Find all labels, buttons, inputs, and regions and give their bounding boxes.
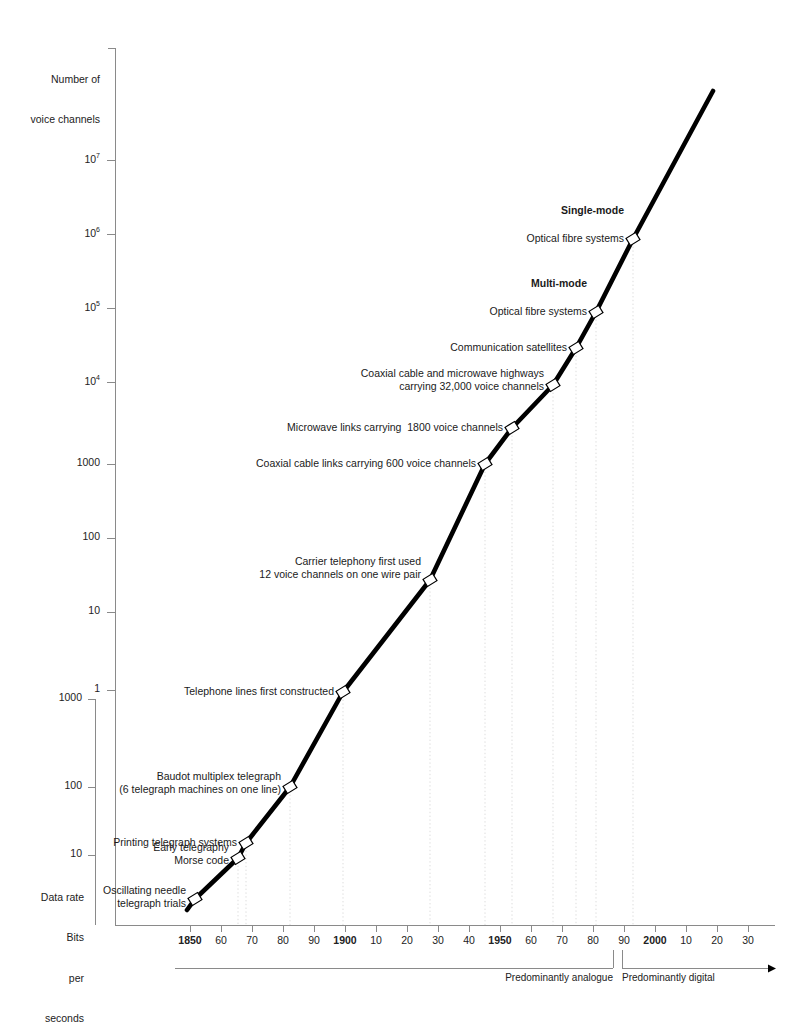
y-axis-tick-label: 106 bbox=[0, 226, 100, 240]
annotation-multi-mode: Optical fibre systems bbox=[287, 305, 587, 318]
annotation-baudot-multiplex: Baudot multiplex telegraph(6 telegraph m… bbox=[0, 770, 281, 797]
annotation-early-telegraphy: Early telegraphyMorse code bbox=[0, 841, 229, 868]
annotation-communication-satellites: Communication satellites bbox=[267, 341, 567, 354]
y-axis-primary-title-line1: Number of bbox=[0, 73, 100, 86]
y-axis-secondary-title-line4: seconds bbox=[0, 1012, 84, 1025]
y-axis-tick-label: 10 bbox=[0, 604, 100, 617]
annotation-single-mode: Optical fibre systems bbox=[324, 232, 624, 245]
era-label: Predominantly digital bbox=[622, 972, 794, 985]
y-axis-tick-label: 107 bbox=[0, 152, 100, 166]
x-axis-tick-label: 30 bbox=[723, 934, 773, 947]
y-axis-secondary-title-line3: per bbox=[0, 972, 84, 985]
y-axis-tick-label: 105 bbox=[0, 300, 100, 314]
annotation-oscillating-needle-line2: telegraph trials bbox=[0, 897, 186, 910]
annotation-coaxial-cable-links: Coaxial cable links carrying 600 voice c… bbox=[176, 457, 476, 470]
y-axis-primary-title: Number of voice channels bbox=[0, 46, 100, 140]
annotation-baudot-multiplex-line2: (6 telegraph machines on one line) bbox=[0, 783, 281, 796]
y-axis-tick-label: 104 bbox=[0, 374, 100, 388]
annotation-microwave-links: Microwave links carrying 1800 voice chan… bbox=[203, 421, 503, 434]
x-axis bbox=[115, 925, 775, 932]
annotation-telephone-lines: Telephone lines first constructed bbox=[34, 685, 334, 698]
era-label: Predominantly analogue bbox=[353, 972, 613, 985]
annotation-coaxial-microwave-highways-line1: Coaxial cable and microwave highways bbox=[244, 367, 544, 380]
annotation-carrier-telephony: Carrier telephony first used12 voice cha… bbox=[121, 555, 421, 582]
annotation-multi-mode-heading: Multi-mode bbox=[287, 277, 587, 290]
era-indicators bbox=[175, 950, 776, 973]
annotation-coaxial-microwave-highways: Coaxial cable and microwave highwayscarr… bbox=[244, 367, 544, 394]
annotation-single-mode-heading: Single-mode bbox=[324, 204, 624, 217]
telecom-capacity-chart bbox=[0, 0, 794, 1027]
annotation-early-telegraphy-line2: Morse code bbox=[0, 854, 229, 867]
annotation-oscillating-needle-line1: Oscillating needle bbox=[0, 884, 186, 897]
annotation-baudot-multiplex-line1: Baudot multiplex telegraph bbox=[0, 770, 281, 783]
y-axis-tick-label: 1000 bbox=[0, 456, 100, 469]
y-axis-primary-title-line2: voice channels bbox=[0, 113, 100, 126]
annotation-early-telegraphy-line1: Early telegraphy bbox=[0, 841, 229, 854]
annotation-carrier-telephony-line2: 12 voice channels on one wire pair bbox=[121, 568, 421, 581]
annotation-coaxial-microwave-highways-line2: carrying 32,000 voice channels bbox=[244, 380, 544, 393]
y-axis-tick-label: 100 bbox=[0, 530, 100, 543]
annotation-carrier-telephony-line1: Carrier telephony first used bbox=[121, 555, 421, 568]
y-axis-secondary-title-line2: Bits bbox=[0, 931, 84, 944]
annotation-oscillating-needle: Oscillating needletelegraph trials bbox=[0, 884, 186, 911]
